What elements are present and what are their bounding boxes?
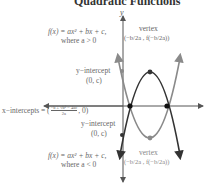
- top-condition: where a > 0: [61, 36, 96, 45]
- yint-top-coords: (0, c): [86, 76, 102, 85]
- xint-label: x−intercepts = ( −b ± √b² − 4ac 2a , 0): [2, 105, 88, 116]
- y-intercept-up: [120, 69, 124, 73]
- vertex-down: [148, 70, 153, 75]
- bot-vertex-coords: (−b/2a , f(−b/2a)): [124, 158, 169, 165]
- yint-bot-title: y−intercept: [81, 119, 115, 128]
- x-intercept-right: [164, 103, 169, 108]
- top-vertex-coords: (−b/2a , f(−b/2a)): [124, 34, 169, 41]
- y-axis-label: y: [120, 8, 124, 17]
- bot-condition: where a < 0: [61, 160, 96, 169]
- x-intercept-left: [127, 103, 132, 108]
- xint-tail: , 0): [78, 106, 88, 115]
- xint-denominator: 2a: [62, 111, 66, 116]
- yint-top-title: y−intercept: [76, 66, 110, 75]
- top-vertex-title: vertex: [139, 24, 158, 33]
- yint-bot-coords: (0, c): [91, 129, 107, 138]
- y-intercept-down: [120, 133, 124, 137]
- xint-label-text: x−intercepts = (: [2, 106, 50, 115]
- vertex-up: [148, 136, 153, 141]
- parabola-downward: [120, 72, 180, 155]
- bot-vertex-title: vertex: [139, 148, 158, 157]
- top-formula: f(x) = ax² + bx + c,: [48, 27, 106, 36]
- diagram-title: Quadratic Functions: [74, 0, 180, 9]
- bot-formula: f(x) = ax² + bx + c,: [48, 151, 106, 160]
